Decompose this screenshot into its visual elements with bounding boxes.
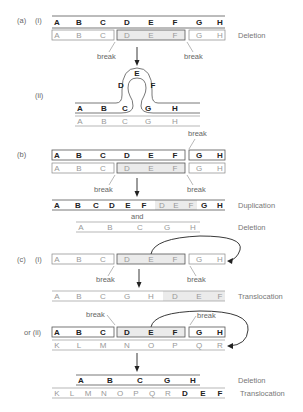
- gene: E: [148, 31, 153, 40]
- c-row-ii-bottom: K L M N O P Q R: [52, 340, 225, 350]
- break-label: break: [94, 185, 113, 194]
- gene: B: [107, 223, 112, 232]
- gene: O: [117, 389, 123, 398]
- gene: H: [217, 18, 223, 27]
- down-arrow-icon: [137, 269, 142, 288]
- gene: G: [164, 376, 170, 385]
- break-label: break: [197, 311, 216, 320]
- gene: H: [190, 223, 196, 232]
- gene: H: [172, 104, 178, 113]
- gene: C: [137, 223, 143, 232]
- gene: L: [70, 389, 75, 398]
- gene: C: [122, 117, 128, 126]
- gene: C: [100, 18, 106, 27]
- c-result-translocation-label: Translocation: [240, 389, 285, 398]
- gene: B: [76, 255, 81, 264]
- gene: M: [85, 389, 92, 398]
- gene: F: [173, 151, 178, 160]
- gene: R: [217, 341, 223, 350]
- gene: H: [217, 201, 223, 210]
- gene: B: [76, 31, 81, 40]
- gene: D: [172, 292, 178, 301]
- panel-a-label: (a): [17, 16, 27, 25]
- gene: G: [145, 104, 151, 113]
- break-label: break: [187, 185, 206, 194]
- panel-c-or-ii: or (ii): [24, 328, 42, 337]
- gene: D: [124, 164, 130, 173]
- gene: F: [173, 18, 178, 27]
- gene: H: [148, 292, 154, 301]
- down-arrow-icon: [135, 178, 140, 197]
- gene: H: [217, 164, 223, 173]
- gene: F: [218, 292, 223, 301]
- break-label: break: [188, 129, 207, 138]
- gene: D: [124, 151, 130, 160]
- gene: C: [100, 255, 106, 264]
- gene: E: [148, 328, 154, 337]
- gene: G: [196, 328, 202, 337]
- panel-a-sub-ii: (ii): [35, 91, 44, 100]
- gene: F: [218, 389, 223, 398]
- gene: G: [196, 31, 202, 40]
- gene: F: [142, 201, 147, 210]
- panel-c-sub-i: (i): [35, 255, 42, 264]
- gene: C: [100, 164, 106, 173]
- gene: B: [101, 117, 106, 126]
- panel-b-label: (b): [17, 150, 27, 159]
- gene: Q: [149, 389, 155, 398]
- gene: D: [124, 18, 130, 27]
- gene: G: [196, 18, 202, 27]
- c-translocation-row: A B C G H D E F: [52, 291, 225, 301]
- gene: H: [217, 328, 223, 337]
- a-row2-chromosome: A B C D E F G H: [52, 30, 225, 40]
- gene: F: [151, 81, 156, 90]
- gene: R: [165, 389, 171, 398]
- gene: G: [201, 201, 207, 210]
- break-label: break: [96, 275, 115, 284]
- b-deletion-label: Deletion: [238, 223, 266, 232]
- gene: D: [124, 255, 130, 264]
- gene: D: [118, 81, 124, 90]
- c-result-deletion-row: A B C G H: [76, 375, 200, 385]
- gene: B: [107, 376, 113, 385]
- gene: H: [172, 117, 178, 126]
- gene: B: [76, 18, 82, 27]
- gene: C: [100, 151, 106, 160]
- gene: A: [54, 328, 60, 337]
- gene: B: [76, 151, 82, 160]
- gene: E: [148, 18, 154, 27]
- gene: F: [189, 201, 194, 210]
- b-deletion-row: A B C G H: [76, 222, 200, 232]
- gene: A: [77, 104, 83, 113]
- gene: C: [100, 328, 106, 337]
- gene: D: [124, 328, 130, 337]
- c-row-ii-top: A B C D E F G H: [52, 327, 225, 337]
- gene: A: [54, 201, 60, 210]
- gene: H: [217, 151, 223, 160]
- gene: G: [196, 164, 202, 173]
- panel-a-sub-i: (i): [35, 16, 42, 25]
- gene: N: [101, 389, 107, 398]
- down-arrow-icon: [135, 353, 140, 372]
- deletion-loop: A B C G H D E F A B C G H: [75, 68, 200, 126]
- panel-c-label: (c): [17, 255, 26, 264]
- gene: B: [76, 328, 82, 337]
- gene: C: [93, 201, 99, 210]
- gene: H: [190, 376, 196, 385]
- c-row-i-chromosome: A B C D E F G H: [52, 254, 225, 264]
- gene: F: [173, 31, 178, 40]
- gene: D: [182, 389, 188, 398]
- c-result-deletion-label: Deletion: [238, 376, 266, 385]
- gene: F: [173, 255, 178, 264]
- b-row2-chromosome: A B C D E F G H: [52, 163, 225, 173]
- gene: A: [54, 255, 60, 264]
- gene: B: [76, 164, 81, 173]
- gene: N: [124, 341, 130, 350]
- gene: H: [217, 31, 223, 40]
- gene: E: [173, 201, 178, 210]
- gene: D: [159, 201, 165, 210]
- gene: E: [148, 164, 153, 173]
- gene: B: [75, 201, 81, 210]
- gene: A: [54, 31, 60, 40]
- gene: G: [164, 223, 170, 232]
